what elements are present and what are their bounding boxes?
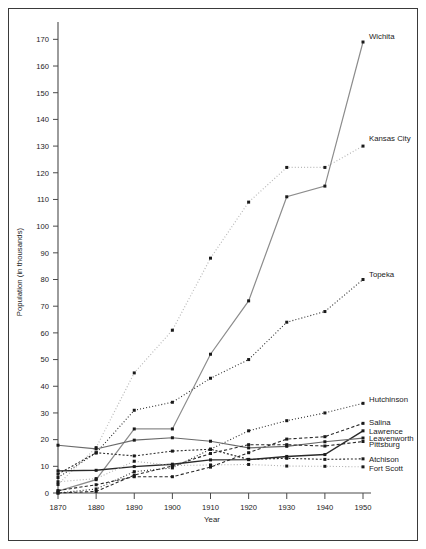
- data-point-marker: [323, 458, 326, 461]
- y-tick-label: 40: [41, 382, 49, 391]
- y-tick-label: 170: [36, 35, 49, 44]
- x-axis-title: Year: [204, 515, 220, 524]
- data-point-marker: [362, 440, 365, 443]
- data-point-marker: [323, 411, 326, 414]
- data-point-marker: [133, 439, 136, 442]
- x-tick-label: 1870: [50, 503, 67, 512]
- data-point-marker: [285, 321, 288, 324]
- series-label-pittsburg: Pittsburg: [369, 440, 400, 449]
- data-point-marker: [247, 201, 250, 204]
- y-tick-label: 100: [36, 222, 49, 231]
- data-point-marker: [323, 465, 326, 468]
- x-tick-label: 1950: [355, 503, 372, 512]
- data-point-marker: [247, 451, 250, 454]
- data-point-marker: [362, 145, 365, 148]
- series-label-wichita: Wichita: [369, 32, 395, 41]
- y-tick-label: 90: [41, 249, 49, 258]
- series-label-kansas-city: Kansas City: [369, 134, 411, 143]
- x-tick-label: 1910: [202, 503, 219, 512]
- data-point-marker: [323, 445, 326, 448]
- data-point-marker: [209, 440, 212, 443]
- data-point-marker: [323, 185, 326, 188]
- data-point-marker: [209, 353, 212, 356]
- data-point-marker: [171, 436, 174, 439]
- series-label-topeka: Topeka: [369, 270, 395, 279]
- data-point-marker: [133, 409, 136, 412]
- data-point-marker: [171, 427, 174, 430]
- chart-figure: 0102030405060708090100110120130140150160…: [0, 0, 426, 549]
- data-point-marker: [57, 473, 60, 476]
- data-point-marker: [285, 457, 288, 460]
- series-label-hutchinson: Hutchinson: [369, 395, 408, 404]
- data-point-marker: [133, 454, 136, 457]
- data-point-marker: [171, 475, 174, 478]
- y-tick-label: 70: [41, 302, 49, 311]
- data-point-marker: [57, 469, 60, 472]
- y-tick-label: 80: [41, 275, 49, 284]
- data-point-marker: [133, 470, 136, 473]
- data-point-marker: [57, 476, 60, 479]
- data-point-marker: [95, 451, 98, 454]
- data-point-marker: [323, 453, 326, 456]
- data-point-marker: [362, 41, 365, 44]
- y-tick-label: 140: [36, 115, 49, 124]
- data-point-marker: [57, 480, 60, 483]
- data-point-marker: [323, 166, 326, 169]
- data-point-marker: [133, 427, 136, 430]
- series-label-atchison: Atchison: [369, 455, 399, 464]
- data-point-marker: [323, 310, 326, 313]
- x-tick-label: 1880: [88, 503, 105, 512]
- data-point-marker: [285, 465, 288, 468]
- series-line-kansas-city: [58, 146, 363, 484]
- data-point-marker: [247, 458, 250, 461]
- data-point-marker: [362, 437, 365, 440]
- data-point-marker: [362, 429, 365, 432]
- y-tick-label: 110: [37, 195, 49, 204]
- y-axis-title: Population (in thousands): [15, 227, 24, 316]
- data-point-marker: [57, 483, 60, 486]
- data-point-marker: [171, 450, 174, 453]
- series-label-salina: Salina: [369, 418, 391, 427]
- data-point-marker: [57, 444, 60, 447]
- series-label-fort-scott: Fort Scott: [369, 464, 404, 473]
- data-point-marker: [285, 419, 288, 422]
- data-point-marker: [95, 469, 98, 472]
- data-point-marker: [247, 446, 250, 449]
- y-tick-label: 0: [45, 489, 49, 498]
- data-point-marker: [95, 490, 98, 493]
- line-chart: 0102030405060708090100110120130140150160…: [0, 0, 426, 549]
- x-tick-label: 1940: [316, 503, 333, 512]
- data-point-marker: [133, 460, 136, 463]
- y-tick-label: 130: [36, 142, 49, 151]
- y-tick-label: 30: [41, 409, 49, 418]
- y-tick-label: 150: [36, 89, 49, 98]
- data-point-marker: [285, 438, 288, 441]
- x-tick-label: 1890: [126, 503, 143, 512]
- data-point-marker: [209, 377, 212, 380]
- data-point-marker: [285, 443, 288, 446]
- series-line-leavenworth: [58, 438, 363, 449]
- data-point-marker: [323, 435, 326, 438]
- data-point-marker: [209, 257, 212, 260]
- y-tick-label: 10: [41, 462, 49, 471]
- data-point-marker: [247, 358, 250, 361]
- data-point-marker: [362, 465, 365, 468]
- data-point-marker: [171, 329, 174, 332]
- x-tick-label: 1920: [240, 503, 257, 512]
- data-point-marker: [362, 402, 365, 405]
- data-point-marker: [57, 492, 60, 495]
- data-point-marker: [95, 483, 98, 486]
- y-tick-label: 60: [41, 329, 49, 338]
- y-tick-label: 50: [41, 355, 49, 364]
- data-point-marker: [133, 371, 136, 374]
- data-point-marker: [209, 463, 212, 466]
- data-point-marker: [285, 195, 288, 198]
- data-point-marker: [362, 422, 365, 425]
- series-lines: [57, 41, 365, 495]
- data-point-marker: [133, 465, 136, 468]
- axes: 0102030405060708090100110120130140150160…: [36, 22, 371, 512]
- data-point-marker: [171, 464, 174, 467]
- data-point-marker: [247, 443, 250, 446]
- data-point-marker: [95, 477, 98, 480]
- data-point-marker: [95, 447, 98, 450]
